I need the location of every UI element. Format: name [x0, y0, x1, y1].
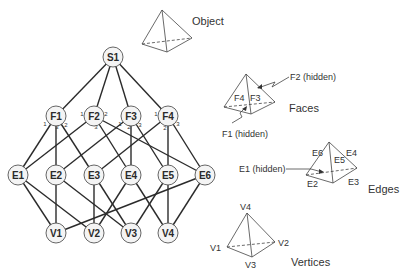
svg-text:F3: F3: [125, 111, 137, 122]
graph-node-e2: E2: [46, 165, 66, 185]
edge-label-e4: E4: [346, 148, 357, 158]
graph-edges: [18, 57, 205, 233]
edge-label-e3: E3: [348, 177, 359, 187]
graph-node-e6: E6: [195, 165, 215, 185]
svg-text:F2: F2: [88, 111, 100, 122]
face-label-f2-hidden: F2 (hidden): [290, 72, 336, 82]
edge-label-e2: E2: [307, 179, 318, 189]
svg-text:V4: V4: [162, 228, 175, 239]
vertex-label-v1: V1: [210, 243, 221, 253]
graph-edge-f1-e1: [18, 116, 56, 175]
edge-label-e1-hidden: E1 (hidden): [239, 164, 286, 174]
graph-edge-s1-f4: [113, 57, 168, 116]
vertex-label-v2: V2: [278, 238, 289, 248]
svg-text:V1: V1: [50, 228, 63, 239]
svg-text:F4: F4: [162, 111, 174, 122]
svg-text:E5: E5: [162, 170, 175, 181]
svg-text:E2: E2: [50, 170, 63, 181]
graph-node-e1: E1: [8, 165, 28, 185]
object-tetrahedron-icon: Object: [142, 10, 224, 52]
vertices-title: Vertices: [291, 256, 331, 268]
graph-node-v3: V3: [121, 223, 141, 243]
edge-label-e5: E5: [334, 155, 345, 165]
vertex-label-v3: V3: [245, 260, 256, 270]
vertex-label-v4: V4: [240, 202, 251, 212]
graph-node-s1: S1: [103, 47, 123, 67]
graph-node-e5: E5: [158, 165, 178, 185]
svg-text:E6: E6: [199, 170, 212, 181]
leader-e1: [286, 169, 322, 172]
edges-tetrahedron-icon: E6 E5 E4 E2 E3 E1 (hidden) Edges: [239, 142, 400, 195]
graph-node-v1: V1: [46, 223, 66, 243]
svg-text:E4: E4: [125, 170, 138, 181]
graph-node-v4: V4: [158, 223, 178, 243]
graph-edge-f1-e3: [56, 116, 94, 175]
graph-node-f2: F2: [84, 106, 104, 126]
svg-text:S1: S1: [107, 52, 120, 63]
faces-title: Faces: [289, 102, 319, 114]
port-number: 2: [64, 122, 68, 128]
object-label: Object: [192, 15, 224, 27]
graph-node-e4: E4: [121, 165, 141, 185]
port-number: 3: [138, 122, 142, 128]
graph-node-f1: F1: [46, 106, 66, 126]
svg-text:V3: V3: [125, 228, 138, 239]
svg-text:F1: F1: [50, 111, 62, 122]
graph-node-f4: F4: [158, 106, 178, 126]
port-number: 1: [43, 121, 47, 127]
svg-text:E1: E1: [12, 170, 25, 181]
leader-f2: [258, 77, 289, 88]
graph-node-f3: F3: [121, 106, 141, 126]
graph-edge-s1-f1: [56, 57, 113, 116]
svg-text:V2: V2: [88, 228, 101, 239]
svg-text:E3: E3: [88, 170, 101, 181]
vertices-tetrahedron-icon: V4 V1 V2 V3 Vertices: [210, 202, 331, 270]
face-label-f3: F3: [250, 93, 261, 103]
edge-label-e6: E6: [312, 148, 323, 158]
graph-node-v2: V2: [84, 223, 104, 243]
faces-tetrahedron-icon: F4 F3 F2 (hidden) F1 (hidden) Faces: [222, 72, 336, 139]
topology-graph: 132123123123 S1F1F2F3F4E1E2E3E4E5E6V1V2V…: [0, 0, 402, 277]
port-number: 2: [104, 111, 108, 117]
edges-title: Edges: [368, 183, 400, 195]
port-number: 3: [176, 121, 180, 127]
graph-node-e3: E3: [84, 165, 104, 185]
face-label-f4: F4: [234, 93, 245, 103]
face-label-f1-hidden: F1 (hidden): [222, 129, 268, 139]
